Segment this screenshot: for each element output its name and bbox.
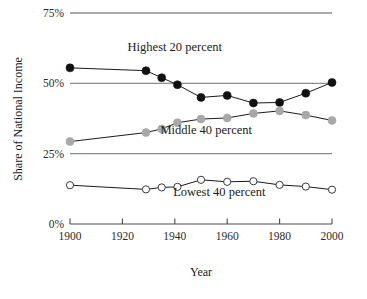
x-tick-label-1940: 1940 bbox=[163, 230, 186, 242]
x-axis bbox=[70, 219, 332, 225]
data-point bbox=[197, 115, 205, 123]
y-tick-label-75: 75% bbox=[43, 7, 65, 19]
y-axis-tick-labels: 75% 50% 25% 0% bbox=[43, 7, 65, 230]
data-point bbox=[142, 67, 150, 75]
data-point bbox=[250, 178, 257, 185]
x-tick-label-1900: 1900 bbox=[59, 230, 82, 242]
x-axis-ticks bbox=[70, 219, 332, 225]
data-point bbox=[328, 78, 336, 86]
data-point bbox=[276, 98, 284, 106]
data-point bbox=[223, 91, 231, 99]
data-point bbox=[223, 114, 231, 122]
data-point bbox=[66, 182, 73, 189]
data-point bbox=[328, 186, 335, 193]
data-point bbox=[249, 99, 257, 107]
x-tick-label-2000: 2000 bbox=[321, 230, 344, 242]
data-point bbox=[197, 176, 204, 183]
y-axis-title: Share of National Income bbox=[11, 57, 25, 181]
data-point bbox=[66, 64, 74, 72]
y-tick-label-0: 0% bbox=[49, 218, 65, 230]
data-point bbox=[197, 93, 205, 101]
x-axis-tick-labels: 190019201940196019802000 bbox=[59, 230, 344, 242]
income-share-chart: 75% 50% 25% 0% 190019201940196019802000 … bbox=[0, 0, 367, 299]
data-point bbox=[66, 138, 74, 146]
x-tick-label-1980: 1980 bbox=[268, 230, 291, 242]
x-tick-label-1960: 1960 bbox=[216, 230, 239, 242]
data-point bbox=[302, 111, 310, 119]
data-point bbox=[302, 183, 309, 190]
data-point bbox=[276, 107, 284, 115]
data-point bbox=[142, 186, 149, 193]
x-axis-title: Year bbox=[190, 265, 212, 279]
data-point bbox=[158, 74, 166, 82]
y-tick-label-25: 25% bbox=[43, 148, 65, 160]
series-label-middle: Middle 40 percent bbox=[160, 123, 252, 137]
series-highest-20-percent bbox=[66, 64, 336, 107]
series-label-highest: Highest 20 percent bbox=[128, 40, 223, 54]
chart-canvas: 75% 50% 25% 0% 190019201940196019802000 … bbox=[0, 0, 367, 299]
data-point bbox=[328, 116, 336, 124]
x-tick-label-1920: 1920 bbox=[111, 230, 134, 242]
data-point bbox=[158, 184, 165, 191]
data-point bbox=[302, 89, 310, 97]
data-point bbox=[276, 181, 283, 188]
series-label-lowest: Lowest 40 percent bbox=[173, 185, 266, 199]
data-point bbox=[249, 109, 257, 117]
data-point bbox=[173, 81, 181, 89]
data-point bbox=[142, 129, 150, 137]
y-tick-label-50: 50% bbox=[43, 77, 65, 89]
